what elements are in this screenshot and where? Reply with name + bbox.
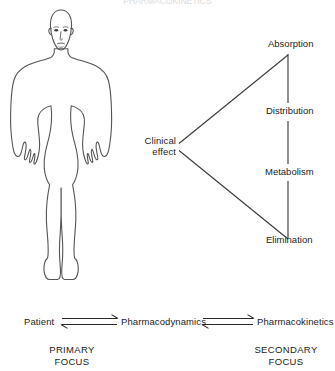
equilibrium-arrow-1: [61, 315, 118, 329]
flow-node-pharmacodynamics: Pharmacodynamics: [121, 316, 206, 327]
flow-node-pharmacokinetics: Pharmacokinetics: [257, 316, 334, 327]
focus-caption-primary-line-2: FOCUS: [24, 356, 120, 368]
focus-caption-primary: PRIMARY FOCUS: [24, 344, 120, 367]
focus-caption-primary-line-1: PRIMARY: [24, 344, 120, 356]
flow-node-patient: Patient: [24, 316, 54, 327]
focus-caption-secondary-line-2: FOCUS: [238, 356, 334, 368]
focus-caption-secondary: SECONDARY FOCUS: [238, 344, 334, 367]
diagram-canvas: PHARMACOKINETICS Absorption Distribution: [0, 0, 335, 371]
equilibrium-arrow-2: [202, 315, 254, 329]
focus-caption-secondary-line-1: SECONDARY: [238, 344, 334, 356]
